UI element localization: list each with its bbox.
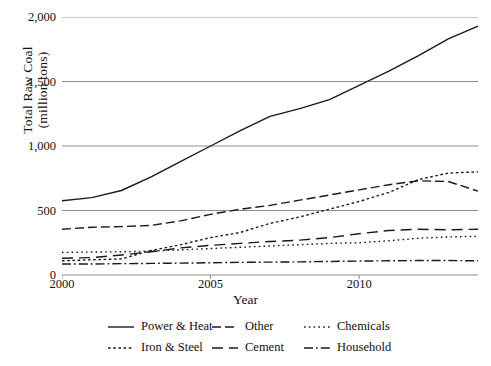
legend-line-swatch bbox=[212, 343, 238, 353]
legend-item-cement[interactable]: Cement bbox=[212, 340, 304, 355]
legend-label: Iron & Steel bbox=[141, 340, 203, 355]
y-tick-label: 500 bbox=[10, 205, 56, 217]
legend-row: Power & HeatOtherChemicals bbox=[108, 316, 408, 337]
series-line-iron-steel bbox=[62, 172, 478, 261]
legend-line-swatch bbox=[108, 343, 134, 353]
x-tick-label: 2005 bbox=[181, 277, 241, 292]
legend-line-swatch bbox=[212, 322, 238, 332]
chart-figure: Total Raw Coal (million tons) 05001,0001… bbox=[0, 0, 491, 366]
legend-line-swatch bbox=[304, 322, 330, 332]
legend-label: Other bbox=[245, 319, 273, 334]
legend-line-swatch bbox=[108, 322, 134, 332]
legend-item-household[interactable]: Household bbox=[304, 340, 408, 355]
y-axis-tick-labels: 05001,0001,5002,000 bbox=[8, 0, 56, 366]
series-line-household bbox=[62, 261, 478, 264]
x-axis-title: Year bbox=[0, 292, 491, 308]
series-line-power-heat bbox=[62, 26, 478, 201]
legend-item-other[interactable]: Other bbox=[212, 319, 304, 334]
legend-label: Household bbox=[337, 340, 391, 355]
x-tick-label: 2010 bbox=[329, 277, 389, 292]
series-line-chemicals bbox=[62, 236, 478, 252]
plot-area bbox=[62, 17, 478, 275]
legend-line-swatch bbox=[304, 343, 330, 353]
x-tick-label: 2000 bbox=[32, 277, 92, 292]
y-tick-label: 1,000 bbox=[10, 140, 56, 152]
series-line-other bbox=[62, 181, 478, 229]
y-tick-label: 1,500 bbox=[10, 76, 56, 88]
legend-label: Cement bbox=[245, 340, 284, 355]
legend-item-chemicals[interactable]: Chemicals bbox=[304, 319, 408, 334]
legend-label: Chemicals bbox=[337, 319, 390, 334]
chart-legend: Power & HeatOtherChemicalsIron & SteelCe… bbox=[108, 316, 408, 358]
y-tick-label: 2,000 bbox=[10, 11, 56, 23]
plot-svg bbox=[62, 17, 482, 285]
legend-label: Power & Heat bbox=[141, 319, 213, 334]
series-line-cement bbox=[62, 229, 478, 258]
legend-item-power-heat[interactable]: Power & Heat bbox=[108, 319, 212, 334]
legend-row: Iron & SteelCementHousehold bbox=[108, 337, 408, 358]
legend-item-iron-steel[interactable]: Iron & Steel bbox=[108, 340, 212, 355]
